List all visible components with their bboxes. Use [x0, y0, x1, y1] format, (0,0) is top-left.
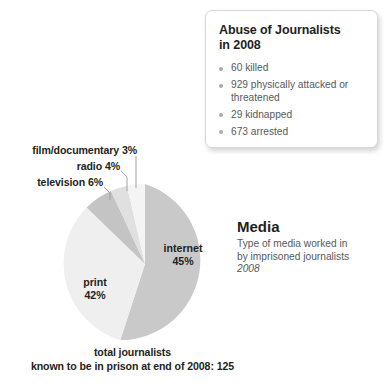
pie-slice-print: [64, 207, 145, 340]
pie-slice-film-documentary: [127, 184, 145, 264]
media-description-line-1: Type of media worked in: [237, 238, 382, 251]
list-item: 929 physically attacked or threatened: [219, 79, 366, 104]
abuse-callout-title-line-1: Abuse of Journalists: [219, 23, 366, 38]
bullet-icon: [219, 84, 223, 88]
list-item-label: 60 killed: [231, 62, 268, 73]
pie-label-television: television 6%: [0, 176, 103, 188]
pie-label-internet: internet 45%: [152, 242, 214, 268]
list-item: 673 arrested: [219, 126, 366, 139]
bullet-icon: [219, 67, 223, 71]
list-item-label: 929 physically attacked or threatened: [231, 79, 348, 103]
list-item-label: 29 kidnapped: [231, 109, 292, 120]
chart-total-caption: total journalists known to be in prison …: [0, 345, 265, 373]
caption-line-2: known to be in prison at end of 2008: 12…: [0, 359, 265, 373]
abuse-callout-title-line-2: in 2008: [219, 38, 366, 53]
media-heading-block: Media Type of media worked in by impriso…: [237, 218, 382, 276]
media-description-line-2: by imprisoned journalists: [237, 251, 382, 264]
media-description: Type of media worked in by imprisoned jo…: [237, 238, 382, 263]
pie-slice-television: [87, 191, 145, 264]
leader-line-radio: [121, 171, 127, 191]
abuse-callout-list: 60 killed 929 physically attacked or thr…: [219, 62, 366, 138]
list-item-label: 673 arrested: [231, 126, 288, 137]
media-year: 2008: [237, 263, 382, 276]
pie-label-print-percent: 42%: [72, 289, 118, 302]
pie-label-radio: radio 4%: [0, 160, 120, 172]
list-item: 29 kidnapped: [219, 109, 366, 122]
list-item: 60 killed: [219, 62, 366, 75]
pie-label-internet-name: internet: [164, 242, 203, 254]
media-title: Media: [237, 218, 382, 236]
pie-label-print: print 42%: [72, 276, 118, 302]
pie-slice-radio: [111, 186, 145, 264]
leader-line-television: [104, 187, 110, 200]
abuse-of-journalists-callout: Abuse of Journalists in 2008 60 killed 9…: [205, 10, 378, 148]
bullet-icon: [219, 130, 223, 134]
bullet-icon: [219, 113, 223, 117]
caption-line-1: total journalists: [0, 345, 265, 359]
pie-label-film-documentary: film/documentary 3%: [0, 144, 137, 156]
pie-label-print-name: print: [83, 276, 107, 288]
abuse-callout-title: Abuse of Journalists in 2008: [219, 23, 366, 53]
pie-label-internet-percent: 45%: [152, 255, 214, 268]
